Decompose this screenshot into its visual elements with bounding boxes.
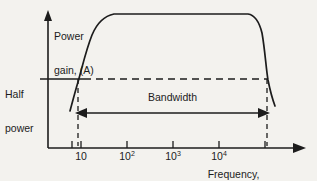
x-axis-ticks (72, 141, 265, 148)
x-tick-label-1000: 103 (165, 150, 181, 162)
half-power-label-line1: Half (5, 89, 34, 100)
bandwidth-arrow (75, 108, 270, 118)
bandwidth-label: Bandwidth (148, 92, 197, 103)
y-axis-label-line2: gain, (A) (54, 65, 94, 76)
x-tick-label-100-base: 10 (119, 150, 131, 162)
x-axis-label-prefix: Frequency, (208, 168, 260, 180)
y-axis-label-line1: Power (54, 31, 94, 42)
x-tick-label-100-exponent: 2 (131, 150, 135, 157)
y-axis-label: Power gain, (A) (54, 8, 94, 99)
half-power-label-line2: power (5, 123, 34, 134)
x-tick-label-10000-exponent: 4 (223, 150, 227, 157)
frequency-response-figure: Power gain, (A) Half power Bandwidth 10 … (0, 0, 317, 181)
x-tick-label-100: 102 (119, 150, 135, 162)
x-axis-label-symbol: f (208, 180, 211, 181)
x-axis-label: Frequency, f (Hz) (196, 158, 259, 181)
half-power-label: Half power (5, 66, 34, 157)
x-tick-label-1000-exponent: 3 (177, 150, 181, 157)
x-tick-label-10: 10 (75, 150, 87, 162)
x-tick-label-1000-base: 10 (165, 150, 177, 162)
